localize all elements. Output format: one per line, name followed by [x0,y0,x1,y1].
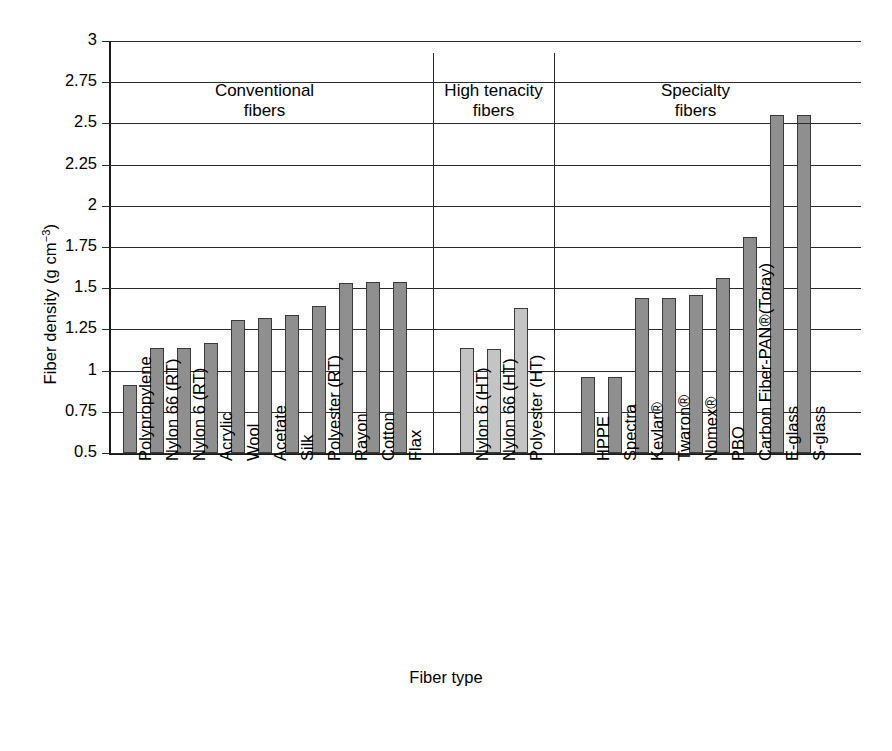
group-label-line2: fibers [409,101,579,121]
group-label-line1: High tenacity [409,81,579,101]
x-tick-label-text: Acetate [271,405,290,461]
y-axis-title-exponent: −3 [40,230,52,243]
x-tick-label-text: Wool [244,424,263,461]
x-tick-label-text: Acrylic [217,412,236,461]
gridline [109,41,861,42]
x-tick-label-text: PBO [729,426,748,461]
y-axis-tick-label-text: 0.5 [74,442,97,461]
y-axis-tick [102,41,109,42]
group-label-line1: Conventional [180,81,350,101]
y-axis-line [109,41,111,455]
y-axis-tick-label-text: 1 [88,360,97,379]
x-tick-label-text: E-glass [783,406,802,461]
x-tick-label-text: Polyester (RT) [325,355,344,461]
group-label-leader-right [353,123,422,124]
bar [312,306,326,453]
y-axis-tick-label-text: 2 [88,195,97,214]
y-axis-tick-label-text: 2.25 [65,154,97,173]
y-axis-tick-label-text: 1.25 [65,318,97,337]
x-tick-label-text: Spectra [621,404,640,461]
chart-figure: Fiber density (g cm−3) 32.752.52.2521.75… [0,0,892,751]
y-axis-tick [102,371,109,372]
y-axis-tick [102,288,109,289]
y-axis-tick-label-text: 2.5 [74,112,97,131]
group-label-leader-right [784,123,826,124]
y-axis-tick-label-text: 1.5 [74,277,97,296]
x-tick-label-text: HPPE [594,416,613,461]
x-tick-label-text: Nylon 66 (RT) [163,359,182,461]
gridline [109,206,861,207]
x-tick-label-text: Nomex® [702,397,721,461]
bar [581,377,595,453]
y-axis-title-tail: ) [41,224,59,230]
y-axis-tick [102,329,109,330]
group-label-leader-left [566,123,608,124]
x-tick-label-text: Flax [406,430,425,461]
x-tick-label-text: Polyester (HT) [527,355,546,461]
bar [743,237,757,453]
group-label-line2: fibers [611,101,781,121]
gridline [109,123,861,124]
x-tick-label-text: Twaron® [675,395,694,461]
y-axis-tick-label-text: 3 [88,30,97,49]
y-axis-tick-label-text: 0.75 [65,401,97,420]
y-axis-tick [102,82,109,83]
group-label-line1: Specialty [611,81,781,101]
x-tick-label-text: Kevlar® [648,402,667,461]
gridline [109,165,861,166]
bar [797,115,811,453]
y-axis-tick [102,123,109,124]
y-axis-tick [102,206,109,207]
x-tick-label-text: Nylon 66 (HT) [500,358,519,461]
y-axis-tick-label-text: 2.75 [65,71,97,90]
x-tick-label-text: Silk [298,434,317,461]
group-label-specialty: Specialtyfibers [611,81,781,121]
group-label-leader-left [109,123,177,124]
y-axis-tick-label-text: 1.75 [65,236,97,255]
x-axis-title: Fiber type [0,668,892,687]
x-tick-label-text: Nylon 6 (HT) [473,367,492,461]
x-tick-label-text: Carbon Fiber-PAN®(Toray) [756,263,775,461]
x-tick-label-text: Cotton [379,412,398,461]
group-label-leader-left [445,123,453,124]
x-tick-label-text: Polypropylene [136,356,155,461]
x-tick-label-text: Nylon 6 (RT) [190,368,209,461]
group-label-conventional: Conventionalfibers [180,81,350,121]
group-label-high-tenacity: High tenacityfibers [409,81,579,121]
y-axis-tick [102,412,109,413]
y-axis-title: Fiber density (g cm−3) [40,134,61,474]
y-axis-tick [102,247,109,248]
y-axis-tick [102,453,109,454]
y-axis-tick [102,165,109,166]
bar [460,348,474,453]
y-axis-title-base: Fiber density (g cm [41,242,59,384]
x-tick-label-text: S-glass [810,406,829,461]
group-label-line2: fibers [180,101,350,121]
x-tick-label-text: Rayon [352,413,371,461]
bar [123,385,137,453]
